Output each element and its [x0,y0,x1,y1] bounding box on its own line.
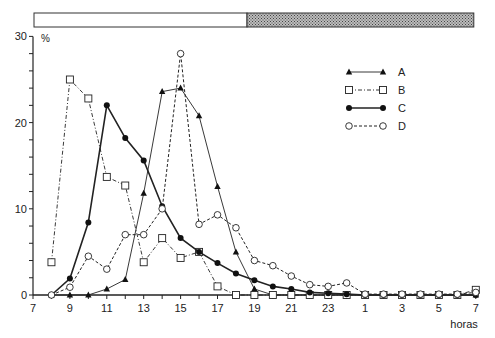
data-point [214,212,221,219]
data-point [473,289,480,296]
y-axis-label: % [41,33,50,44]
legend-marker [380,87,387,94]
x-tick-label: 9 [67,302,73,314]
data-point [122,135,128,141]
y-tick-label: 30 [15,30,27,42]
y-tick-label: 0 [21,289,27,301]
data-point [306,281,313,288]
data-point [454,291,461,298]
x-tick-label: 13 [138,302,150,314]
data-point [232,292,239,299]
data-point [196,221,203,228]
data-series [48,50,479,298]
data-point [177,254,184,261]
data-point [177,50,184,57]
x-tick-label: 5 [436,302,442,314]
legend-label: B [398,84,405,96]
x-axis-label: horas [450,318,478,330]
legend-marker [380,123,387,130]
x-tick-label: 3 [399,302,405,314]
data-point [103,173,110,180]
legend-marker [346,69,352,75]
data-point [104,266,111,273]
data-point [288,273,295,280]
data-point [141,190,147,196]
dark-period-bar [247,13,474,27]
legend-label: A [398,66,406,78]
data-point [417,291,424,298]
data-point [159,206,166,213]
line-chart: 0102030%79111315171921231357horas ABCD [0,0,495,338]
axes: 0102030%79111315171921231357horas [15,30,479,330]
series-d [48,50,479,298]
data-point [399,291,406,298]
x-tick-label: 21 [285,302,297,314]
y-tick-label: 20 [15,117,27,129]
data-point [122,231,129,238]
data-point [214,183,220,189]
data-point [104,102,110,108]
data-point [85,220,91,226]
legend-marker [346,105,352,111]
data-point [141,158,147,164]
data-point [325,290,331,296]
data-point [307,289,313,295]
data-point [48,259,55,266]
data-point [233,224,240,231]
data-point [67,276,73,282]
light-dark-bar [34,13,474,27]
y-tick-label: 10 [15,203,27,215]
data-point [177,85,183,91]
x-tick-label: 19 [248,302,260,314]
data-point [140,231,147,238]
data-point [270,283,276,289]
data-point [159,235,166,242]
x-tick-label: 1 [362,302,368,314]
x-tick-label: 17 [211,302,223,314]
legend-marker [346,87,353,94]
data-point [85,253,92,260]
legend-marker [380,105,386,111]
data-point [380,291,387,298]
data-point [140,259,147,266]
data-point [251,277,257,283]
data-point [122,182,129,189]
x-tick-label: 11 [101,302,112,314]
legend-marker [380,69,386,75]
data-point [288,292,295,299]
data-point [66,76,73,83]
legend-item-b: B [346,84,406,96]
data-point [362,291,369,298]
x-tick-label: 7 [473,302,479,314]
legend-label: D [398,120,406,132]
data-point [67,284,74,291]
data-point [122,276,128,282]
data-point [233,248,239,254]
legend-item-a: A [346,66,406,78]
data-point [233,270,239,276]
data-point [104,285,110,291]
legend-label: C [398,102,406,114]
data-point [178,235,184,241]
x-tick-label: 7 [30,302,36,314]
legend-marker [346,123,353,130]
data-point [436,291,443,298]
data-point [196,249,202,255]
data-point [214,283,221,290]
light-period-bar [34,13,247,27]
data-point [251,285,257,291]
data-point [344,291,350,297]
legend-item-d: D [346,120,406,132]
data-point [48,292,55,299]
x-tick-label: 15 [174,302,186,314]
legend: ABCD [346,66,407,132]
data-point [288,286,294,292]
legend-item-c: C [346,102,406,114]
x-tick-label: 23 [322,302,334,314]
series-b [48,76,479,299]
data-point [215,260,221,266]
data-point [343,280,350,287]
data-point [85,95,92,102]
series-c [48,102,478,298]
data-point [270,262,277,269]
